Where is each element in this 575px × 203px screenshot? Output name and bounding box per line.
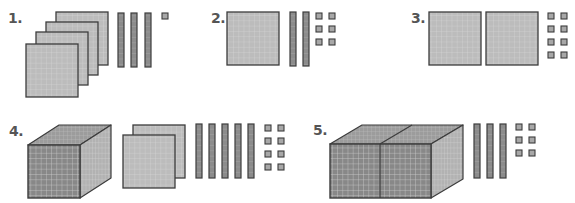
one-unit <box>561 13 567 19</box>
problem-3 <box>429 12 567 65</box>
problem-1 <box>26 12 168 97</box>
one-unit <box>329 26 335 32</box>
ten-rod <box>118 13 124 67</box>
problem-2 <box>227 12 335 66</box>
ten-rod <box>222 124 228 178</box>
ten-rod <box>248 124 254 178</box>
problem-number-label: 5. <box>313 123 327 137</box>
one-unit <box>316 13 322 19</box>
one-unit <box>278 151 284 157</box>
problem-5 <box>330 124 535 198</box>
problem-number-label: 4. <box>9 124 23 138</box>
one-unit <box>548 13 554 19</box>
one-unit <box>529 137 535 143</box>
problem-4 <box>28 124 284 198</box>
one-unit <box>329 13 335 19</box>
one-unit <box>548 52 554 58</box>
thousand-cube <box>28 125 111 198</box>
hundred-flat <box>227 12 279 65</box>
base-ten-blocks-worksheet: 1.2.3.4.5. <box>0 0 575 203</box>
one-unit <box>265 125 271 131</box>
ten-rod <box>487 124 493 178</box>
one-unit <box>529 124 535 130</box>
one-unit <box>516 124 522 130</box>
ten-rod <box>474 124 480 178</box>
problem-number-label: 1. <box>8 11 22 25</box>
ten-rod <box>235 124 241 178</box>
hundred-flat <box>26 44 78 97</box>
hundred-flat <box>429 12 481 65</box>
one-unit <box>329 39 335 45</box>
ten-rod <box>209 124 215 178</box>
hundred-flat <box>486 12 538 65</box>
ten-rod <box>145 13 151 67</box>
one-unit <box>265 138 271 144</box>
ten-rod <box>500 124 506 178</box>
one-unit <box>265 151 271 157</box>
blocks-canvas <box>0 0 575 203</box>
one-unit <box>278 164 284 170</box>
ten-rod <box>196 124 202 178</box>
one-unit <box>265 164 271 170</box>
problem-number-label: 2. <box>211 11 225 25</box>
one-unit <box>561 52 567 58</box>
hundred-flat <box>123 135 175 188</box>
one-unit <box>316 26 322 32</box>
one-unit <box>278 125 284 131</box>
one-unit <box>278 138 284 144</box>
one-unit <box>561 39 567 45</box>
ten-rod <box>303 12 309 66</box>
ten-rod <box>290 12 296 66</box>
one-unit <box>529 150 535 156</box>
one-unit <box>548 26 554 32</box>
one-unit <box>548 39 554 45</box>
one-unit <box>162 13 168 19</box>
ten-rod <box>131 13 137 67</box>
one-unit <box>316 39 322 45</box>
thousand-cube <box>330 125 463 198</box>
problem-number-label: 3. <box>411 11 425 25</box>
one-unit <box>516 150 522 156</box>
one-unit <box>561 26 567 32</box>
one-unit <box>516 137 522 143</box>
